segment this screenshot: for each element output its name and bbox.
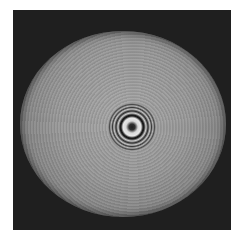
dark-frame: [13, 10, 231, 230]
central-rings: [108, 103, 156, 151]
illuminated-disk: [20, 31, 226, 217]
